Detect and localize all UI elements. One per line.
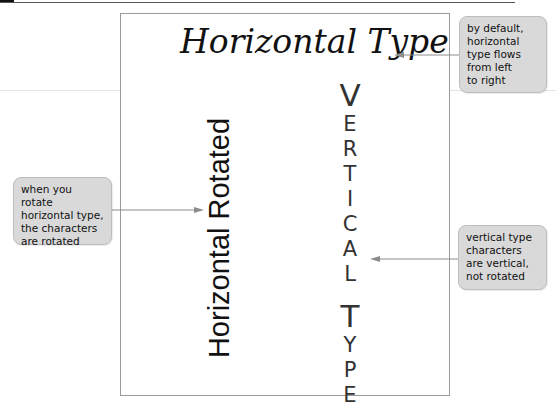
callout-text: horizontal <box>467 35 539 48</box>
arrow-left-icon <box>370 254 458 264</box>
callout-rotated-type: when you rotate horizontal type, the cha… <box>13 177 112 245</box>
vertical-letter: E <box>343 114 356 135</box>
callout-text: are rotated <box>21 235 104 248</box>
callout-text: not rotated <box>466 270 539 283</box>
top-bar-rule <box>0 2 515 3</box>
vertical-letter: R <box>343 139 358 160</box>
callout-horizontal-type: by default, horizontal type flows from l… <box>459 16 547 93</box>
arrow-left-icon <box>394 50 460 60</box>
arrow-rotated <box>112 205 204 215</box>
vertical-type-sample: V E R T I C A L T Y P E <box>335 80 365 405</box>
vertical-letter: L <box>344 264 356 285</box>
arrow-vertical <box>370 254 458 264</box>
vertical-letter: T <box>344 164 357 185</box>
callout-vertical-type: vertical type characters are vertical, n… <box>458 225 547 290</box>
callout-text: to right <box>467 74 539 87</box>
callout-text: characters <box>466 244 539 257</box>
top-bar <box>0 0 556 4</box>
vertical-letter: T <box>341 301 360 332</box>
callout-text: horizontal type, <box>21 209 104 222</box>
vertical-letter: A <box>343 239 357 260</box>
callout-text: when you rotate <box>21 183 104 209</box>
vertical-letter: C <box>343 214 358 235</box>
callout-text: are vertical, <box>466 257 539 270</box>
horizontal-rotated-sample: Horizontal Rotated <box>203 118 236 358</box>
callout-text: by default, <box>467 22 539 35</box>
callout-text: the characters <box>21 222 104 235</box>
vertical-letter: Y <box>344 335 357 356</box>
vertical-letter: P <box>344 360 357 381</box>
callout-text: type flows <box>467 48 539 61</box>
callout-text: vertical type <box>466 231 539 244</box>
vertical-letter: E <box>343 385 356 405</box>
vertical-letter: V <box>339 80 360 111</box>
callout-text: from left <box>467 61 539 74</box>
vertical-letter: I <box>347 189 353 210</box>
arrow-right-icon <box>112 205 204 215</box>
arrow-horizontal <box>394 50 460 60</box>
